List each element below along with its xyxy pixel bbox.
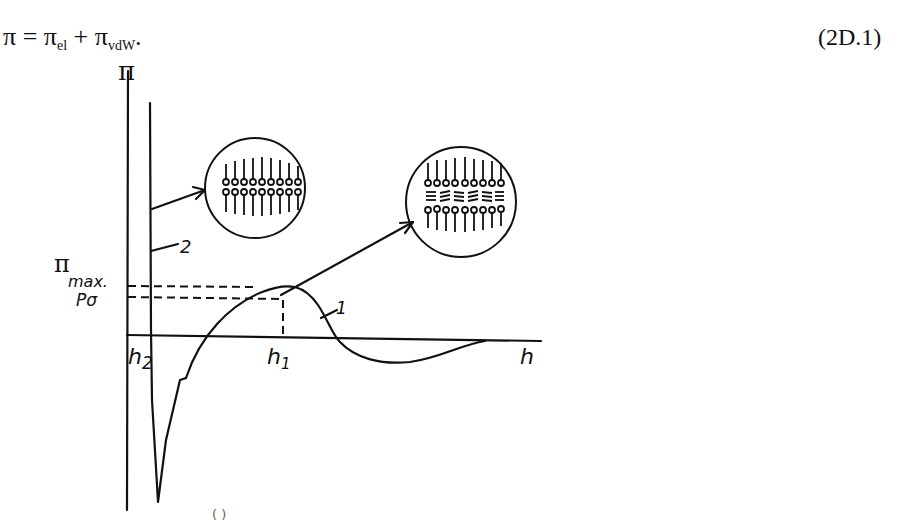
p-sigma-label: Pσ bbox=[76, 290, 97, 310]
h1-subscript: 1 bbox=[281, 355, 291, 373]
h2-subscript: 2 bbox=[142, 353, 153, 373]
inset-newton-black-film bbox=[205, 138, 305, 238]
caption-fragment: ( ) bbox=[212, 507, 226, 522]
y-axis bbox=[127, 71, 128, 510]
curve-2-label: 2 bbox=[180, 236, 191, 257]
h1-label: h1 bbox=[267, 344, 291, 373]
arrow-to-inset-2 bbox=[281, 222, 413, 295]
y-axis-label: π bbox=[118, 56, 135, 86]
curve-1-label: 1 bbox=[336, 298, 347, 318]
pi-max-subscript: max. bbox=[68, 272, 108, 291]
h2-label: h2 bbox=[128, 344, 153, 373]
disjoining-pressure-figure bbox=[0, 0, 909, 526]
h1-symbol: h bbox=[267, 344, 281, 369]
x-axis-label: h bbox=[520, 344, 534, 369]
curve-2 bbox=[150, 103, 186, 502]
h2-symbol: h bbox=[128, 344, 142, 369]
pi-max-guide bbox=[128, 286, 256, 287]
curve-2-leader bbox=[151, 244, 178, 251]
inset-common-black-film bbox=[406, 147, 516, 257]
